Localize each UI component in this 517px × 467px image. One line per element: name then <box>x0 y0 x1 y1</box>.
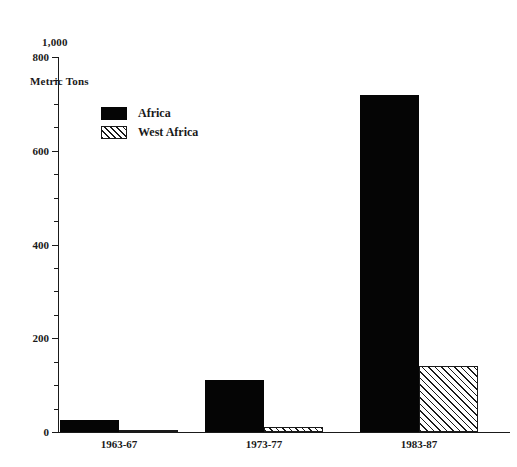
y-axis-major-tick <box>52 151 59 152</box>
x-axis-tick-label: 1973-77 <box>246 438 283 450</box>
y-axis-minor-tick <box>54 221 59 222</box>
y-axis-minor-tick <box>54 198 59 199</box>
y-axis-major-tick <box>52 432 59 433</box>
legend-swatch-solid-icon <box>101 107 127 120</box>
y-axis-minor-tick <box>54 127 59 128</box>
x-axis-tick-label: 1963-67 <box>101 438 138 450</box>
y-axis-tick-label: 0 <box>44 426 50 438</box>
bar-1973-77-africa <box>205 380 264 432</box>
bar-1983-87-west-africa <box>419 366 478 432</box>
y-axis-minor-tick <box>54 315 59 316</box>
y-axis-tick-label: 800 <box>33 51 50 63</box>
bar-1963-67-west-africa <box>119 430 178 432</box>
y-axis-tick-label: 200 <box>33 332 50 344</box>
y-axis-major-tick <box>52 338 59 339</box>
y-axis-minor-tick <box>54 385 59 386</box>
bar-chart: 1,000 Metric Tons 0200400600800 1963-671… <box>0 0 517 467</box>
unit-caption-line-1: 1,000 <box>30 36 89 49</box>
y-axis-tick-label: 400 <box>33 239 50 251</box>
y-axis-tick-label: 600 <box>33 145 50 157</box>
legend-item-africa: Africa <box>101 104 198 123</box>
x-axis-tick-label: 1983-87 <box>401 438 438 450</box>
y-axis-major-tick <box>52 245 59 246</box>
y-axis-minor-tick <box>54 80 59 81</box>
x-axis-line <box>58 432 510 433</box>
bar-1963-67-africa <box>60 420 119 432</box>
bar-1973-77-west-africa <box>264 427 323 432</box>
y-axis-minor-tick <box>54 409 59 410</box>
y-axis-minor-tick <box>54 362 59 363</box>
legend-label-africa: Africa <box>138 106 171 121</box>
legend-swatch-hatch-icon <box>101 126 127 139</box>
legend-label-west-africa: West Africa <box>138 125 198 140</box>
bar-1983-87-africa <box>360 95 419 433</box>
y-axis-minor-tick <box>54 104 59 105</box>
y-axis-minor-tick <box>54 268 59 269</box>
y-axis-minor-tick <box>54 291 59 292</box>
y-axis-major-tick <box>52 57 59 58</box>
legend: Africa West Africa <box>101 104 198 142</box>
legend-item-west-africa: West Africa <box>101 123 198 142</box>
y-axis-minor-tick <box>54 174 59 175</box>
